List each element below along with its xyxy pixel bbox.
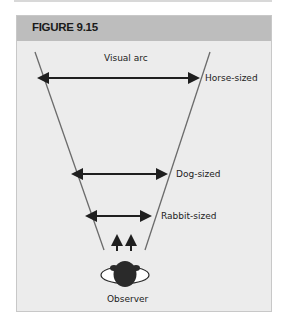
observer-label: Observer [107,294,149,304]
visual-arc-label: Visual arc [104,53,148,63]
observer-icon [101,261,149,287]
dog-sized-label: Dog-sized [176,169,221,179]
visual-arc-diagram: Visual arc Horse-sized Dog-sized Rabbit-… [0,0,283,323]
visual-arc-left-line [35,52,104,250]
rabbit-sized-label: Rabbit-sized [161,211,216,221]
horse-sized-label: Horse-sized [205,73,258,83]
